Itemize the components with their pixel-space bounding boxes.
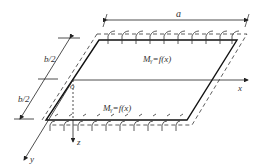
label-x: x bbox=[237, 83, 242, 93]
bottom-edge-moments bbox=[50, 114, 183, 131]
label-b-half-bottom: b/2 bbox=[18, 94, 30, 104]
label-moment-top: Mᵧ=f(x) bbox=[142, 54, 171, 64]
dimension-b bbox=[14, 38, 80, 119]
label-y: y bbox=[29, 154, 34, 164]
label-a: a bbox=[176, 8, 181, 19]
top-edge-moments bbox=[108, 31, 239, 44]
label-origin: o bbox=[70, 81, 75, 91]
dimension-a: a bbox=[103, 8, 249, 27]
label-moment-bottom: Mᵧ=f(x) bbox=[102, 103, 131, 113]
label-z: z bbox=[76, 137, 81, 147]
plate-diagram: a x z bbox=[0, 0, 256, 167]
label-b-half-top: b/2 bbox=[44, 54, 56, 64]
x-axis: x bbox=[72, 80, 248, 93]
